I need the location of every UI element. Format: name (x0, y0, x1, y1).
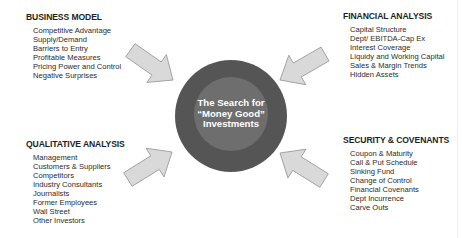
list-item: Call & Put Schedule (350, 158, 449, 167)
qualitative-analysis-section: QUALITATIVE ANALYSIS Management Customer… (26, 139, 125, 225)
security-covenants-list: Coupon & Maturity Call & Put Schedule Si… (343, 149, 449, 212)
list-item: Change of Control (350, 176, 449, 185)
business-model-section: BUSINESS MODEL Competitive Advantage Sup… (26, 12, 121, 80)
list-item: Pricing Power and Control (33, 62, 121, 71)
list-item: Industry Consultants (33, 180, 125, 189)
business-model-title: BUSINESS MODEL (26, 12, 121, 22)
right-edge-divider (457, 0, 458, 238)
list-item: Sales & Margin Trends (350, 61, 444, 70)
list-item: Barriers to Entry (33, 44, 121, 53)
list-item: Capital Structure (350, 25, 444, 34)
list-item: Competitors (33, 171, 125, 180)
arrow-financial-analysis-icon (272, 39, 334, 94)
arrow-security-covenants-icon (271, 139, 333, 195)
list-item: Other Investors (33, 216, 125, 225)
list-item: Wall Street (33, 207, 125, 216)
list-item: Dept Incurrence (350, 194, 449, 203)
list-item: Coupon & Maturity (350, 149, 449, 158)
list-item: Journalists (33, 189, 125, 198)
list-item: Profitable Measures (33, 53, 121, 62)
list-item: Negative Surprises (33, 71, 121, 80)
list-item: Carve Outs (350, 203, 449, 212)
center-line-3: Investments (175, 119, 287, 130)
qualitative-analysis-title: QUALITATIVE ANALYSIS (26, 139, 125, 149)
qualitative-analysis-list: Management Customers & Suppliers Competi… (26, 153, 125, 225)
list-item: Former Employees (33, 198, 125, 207)
list-item: Interest Coverage (350, 43, 444, 52)
financial-analysis-title: FINANCIAL ANALYSIS (343, 11, 444, 21)
list-item: Liquidy and Working Capital (350, 52, 444, 61)
list-item: Customers & Suppliers (33, 162, 125, 171)
list-item: Hidden Assets (350, 70, 444, 79)
financial-analysis-section: FINANCIAL ANALYSIS Capital Structure Dep… (343, 11, 444, 79)
center-title: The Search for “Money Good” Investments (175, 98, 287, 130)
list-item: Sinking Fund (350, 167, 449, 176)
security-covenants-title: SECURITY & COVENANTS (343, 135, 449, 145)
arrow-business-model-icon (121, 36, 183, 94)
center-line-1: The Search for (175, 98, 287, 109)
business-model-list: Competitive Advantage Supply/Demand Barr… (26, 26, 121, 80)
security-covenants-section: SECURITY & COVENANTS Coupon & Maturity C… (343, 135, 449, 212)
financial-analysis-list: Capital Structure Dept/ EBITDA-Cap Ex In… (343, 25, 444, 79)
list-item: Competitive Advantage (33, 26, 121, 35)
list-item: Supply/Demand (33, 35, 121, 44)
arrow-qualitative-analysis-icon (119, 138, 181, 194)
list-item: Management (33, 153, 125, 162)
list-item: Dept/ EBITDA-Cap Ex (350, 34, 444, 43)
list-item: Financial Covenants (350, 185, 449, 194)
